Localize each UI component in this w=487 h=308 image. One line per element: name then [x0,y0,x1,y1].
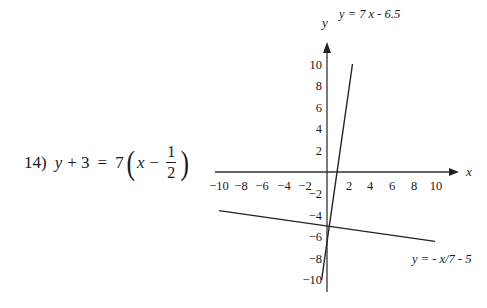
line2-label: y = - x/7 - 5 [410,252,471,266]
y-tick: −2 [309,187,322,201]
y-tick: 2 [316,144,322,158]
y-axis-label: y [320,15,328,30]
coordinate-graph: x y −10 −8 −6 −4 −2 2 4 6 8 10 10 8 6 4 … [0,0,487,308]
y-tick: −4 [309,209,323,223]
x-tick: −10 [209,179,229,193]
y-tick: −6 [309,230,322,244]
y-tick: −8 [309,252,322,266]
x-tick: 4 [367,179,374,193]
x-tick: 2 [346,179,352,193]
x-tick: 6 [389,179,395,193]
line1-label: y = 7 x - 6.5 [337,7,400,21]
x-tick: 8 [411,179,417,193]
y-axis-arrow-icon [323,42,331,53]
x-axis-label: x [465,164,472,179]
y-tick: −10 [302,273,322,287]
x-tick: −8 [234,179,247,193]
y-tick: 10 [310,58,323,72]
x-axis-arrow-icon [449,168,459,176]
y-tick: 8 [316,79,322,93]
y-tick: 4 [316,122,323,136]
x-tick: −4 [277,179,291,193]
y-tick: 6 [316,101,322,115]
x-tick-labels: −10 −8 −6 −4 −2 2 4 6 8 10 [209,179,442,193]
x-tick: −6 [255,179,268,193]
x-tick: 10 [430,179,443,193]
